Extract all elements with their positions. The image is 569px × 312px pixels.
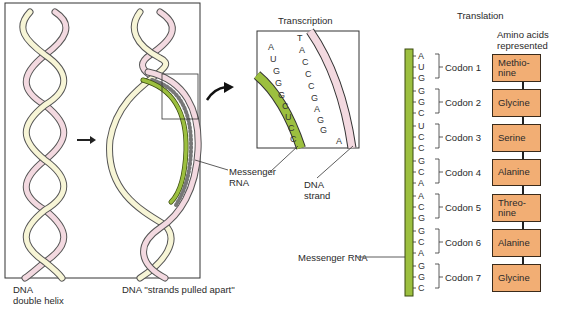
codon-label-4: Codon 4 — [445, 167, 481, 178]
amino-acid-methionine: Methio-nine — [492, 54, 541, 82]
codon-label-3: Codon 3 — [445, 132, 481, 143]
peptide-bond — [522, 151, 524, 159]
amino-acid-alanine-2: Alanine — [492, 229, 541, 257]
amino-text: Alanine — [498, 238, 530, 249]
peptide-bond — [522, 116, 524, 124]
peptide-bond — [522, 81, 524, 89]
amino-acid-glycine: Glycine — [492, 89, 541, 117]
amino-text: nine — [498, 208, 526, 219]
amino-acid-alanine: Alanine — [492, 159, 541, 186]
amino-acid-threonine: Threo-nine — [492, 194, 541, 222]
codon-label-1: Codon 1 — [445, 62, 481, 73]
peptide-bond — [522, 221, 524, 229]
amino-text: Glycine — [498, 98, 530, 109]
codon-label-5: Codon 5 — [445, 202, 481, 213]
amino-acid-glycine-2: Glycine — [492, 264, 541, 292]
amino-text: Serine — [498, 133, 525, 144]
codon-label-7: Codon 7 — [445, 272, 481, 283]
codon-label-2: Codon 2 — [445, 97, 481, 108]
amino-text: Alanine — [498, 167, 530, 178]
peptide-bond — [522, 256, 524, 264]
codon-label-6: Codon 6 — [445, 237, 481, 248]
amino-text: nine — [498, 68, 530, 79]
amino-acid-serine: Serine — [492, 124, 541, 152]
codon-brackets — [0, 0, 569, 312]
amino-text: Glycine — [498, 273, 530, 284]
